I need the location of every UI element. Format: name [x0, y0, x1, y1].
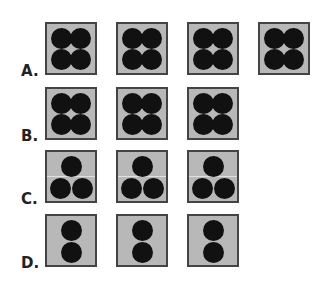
dot-card — [116, 22, 168, 75]
dot-card — [116, 150, 168, 203]
dot-card — [116, 214, 168, 267]
dot-icon — [141, 28, 162, 49]
dot-icon — [70, 114, 91, 135]
dot-icon — [61, 242, 82, 263]
dot-icon — [70, 28, 91, 49]
dot-icon — [141, 114, 162, 135]
dot-icon — [70, 49, 91, 70]
dot-icon — [51, 49, 72, 70]
dot-icon — [121, 178, 142, 199]
dot-icon — [132, 156, 153, 177]
option-label[interactable]: D. — [21, 254, 39, 272]
dot-card — [45, 150, 97, 203]
dot-icon — [264, 49, 285, 70]
dot-card — [258, 22, 310, 75]
dot-card — [116, 87, 168, 140]
dot-icon — [203, 242, 224, 263]
dot-icon — [122, 114, 143, 135]
dot-card — [187, 214, 239, 267]
dot-icon — [61, 220, 82, 241]
dot-card — [187, 87, 239, 140]
option-label[interactable]: A. — [21, 62, 39, 80]
dot-icon — [51, 93, 72, 114]
dot-icon — [141, 93, 162, 114]
dot-icon — [61, 156, 82, 177]
dot-icon — [193, 49, 214, 70]
dot-icon — [212, 28, 233, 49]
dot-icon — [51, 28, 72, 49]
dot-icon — [122, 93, 143, 114]
dot-card — [187, 22, 239, 75]
dot-icon — [72, 178, 93, 199]
dot-icon — [50, 178, 71, 199]
dot-icon — [212, 93, 233, 114]
dot-icon — [283, 49, 304, 70]
dot-icon — [122, 49, 143, 70]
dot-icon — [193, 114, 214, 135]
dot-icon — [192, 178, 213, 199]
dot-icon — [51, 114, 72, 135]
dot-icon — [212, 114, 233, 135]
dot-icon — [203, 220, 224, 241]
dot-icon — [193, 28, 214, 49]
dot-card — [45, 22, 97, 75]
dot-icon — [70, 93, 91, 114]
dot-icon — [141, 49, 162, 70]
dot-icon — [122, 28, 143, 49]
dot-icon — [264, 28, 285, 49]
dot-icon — [143, 178, 164, 199]
dot-card — [45, 87, 97, 140]
dot-icon — [193, 93, 214, 114]
dot-icon — [283, 28, 304, 49]
dot-icon — [203, 156, 224, 177]
option-label[interactable]: C. — [21, 190, 38, 208]
dot-icon — [132, 242, 153, 263]
dot-icon — [132, 220, 153, 241]
dot-icon — [212, 49, 233, 70]
dot-card — [187, 150, 239, 203]
option-label[interactable]: B. — [21, 127, 38, 145]
dot-icon — [214, 178, 235, 199]
dot-card — [45, 214, 97, 267]
